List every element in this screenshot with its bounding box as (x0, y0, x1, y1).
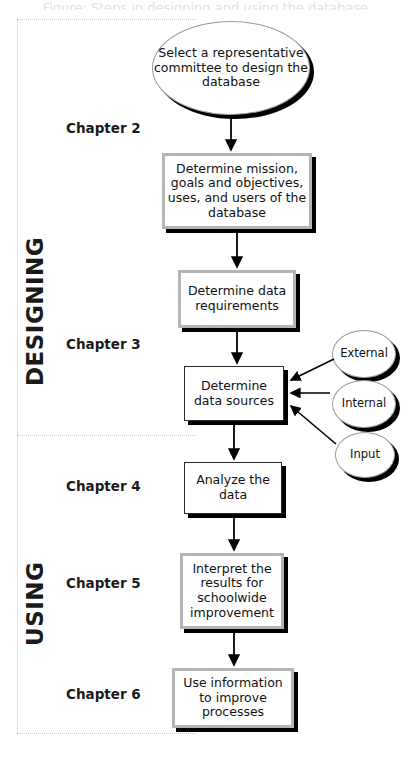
process-node-use-label: Use information to improve processes (175, 676, 291, 720)
frame-bottom-border (17, 733, 195, 734)
process-node-mission-label: Determine mission, goals and objectives,… (165, 162, 309, 221)
flowchart-canvas: Figure: Steps in designing and using the… (0, 0, 411, 757)
process-node-requirements: Determine data requirements (178, 270, 296, 328)
process-node-interpret: Interpret the results for schoolwide imp… (180, 553, 284, 629)
arrow-input-to-sources (291, 406, 336, 444)
process-node-requirements-label: Determine data requirements (181, 284, 293, 314)
chapter-label-4: Chapter 4 (66, 478, 141, 494)
source-node-external: External (332, 330, 396, 378)
source-node-input: Input (335, 432, 395, 478)
chapter-label-3: Chapter 3 (66, 336, 141, 352)
source-node-internal: Internal (332, 380, 396, 428)
process-node-analyze: Analyze the data (184, 462, 282, 514)
chapter-label-5: Chapter 5 (66, 575, 141, 591)
section-label-designing: DESIGNING (22, 237, 48, 386)
process-node-analyze-label: Analyze the data (185, 473, 281, 503)
frame-top-border (17, 19, 195, 20)
source-node-input-label: Input (350, 448, 380, 461)
process-node-use: Use information to improve processes (172, 668, 294, 728)
source-node-internal-label: Internal (342, 397, 386, 410)
source-node-external-label: External (340, 347, 388, 360)
start-node: Select a representative committee to des… (152, 21, 310, 115)
process-node-interpret-label: Interpret the results for schoolwide imp… (183, 562, 281, 621)
process-node-sources-label: Determine data sources (185, 379, 283, 409)
section-label-using: USING (22, 562, 48, 646)
cropped-caption-text: Figure: Steps in designing and using the… (0, 0, 411, 10)
chapter-label-6: Chapter 6 (66, 686, 141, 702)
process-node-mission: Determine mission, goals and objectives,… (162, 153, 312, 229)
arrow-external-to-sources (291, 359, 334, 380)
start-node-label: Select a representative committee to des… (153, 46, 309, 90)
frame-section-divider (17, 435, 195, 436)
frame-left-border (17, 19, 18, 733)
process-node-sources: Determine data sources (184, 366, 284, 421)
chapter-label-2: Chapter 2 (66, 120, 141, 136)
